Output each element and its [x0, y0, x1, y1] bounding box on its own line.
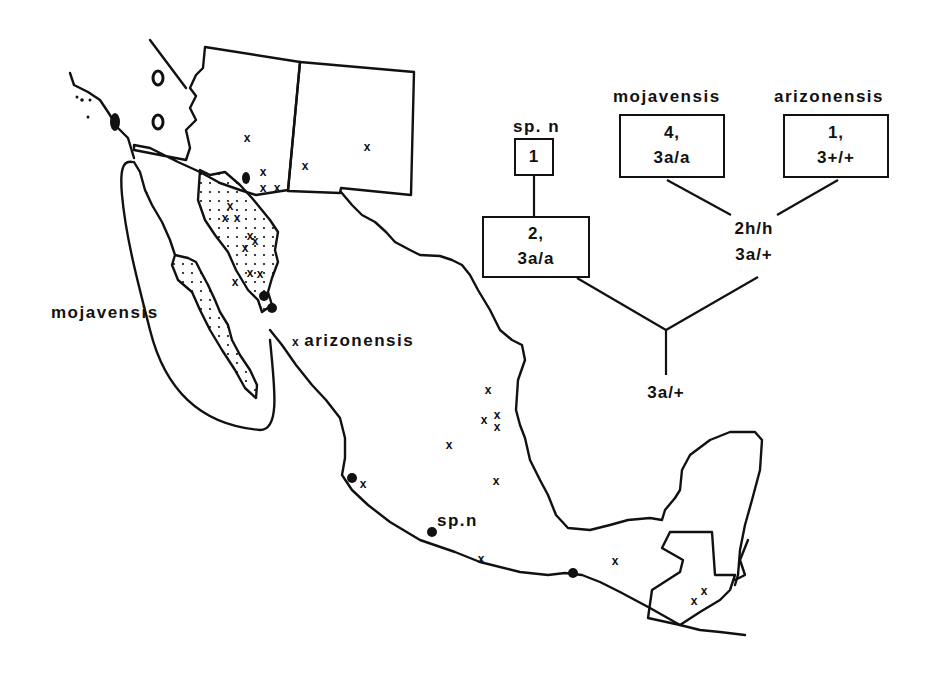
svg-text:x: x	[494, 420, 501, 434]
label-arizonensis: xarizonensis	[292, 332, 414, 349]
locality-dot	[267, 303, 277, 313]
branch	[777, 180, 838, 215]
label-sp-n: sp.n	[437, 512, 478, 529]
svg-text:x: x	[274, 181, 281, 195]
locality-dot	[347, 473, 357, 483]
arizonensis-text: arizonensis	[304, 331, 414, 350]
svg-text:x: x	[360, 477, 367, 491]
locality-dot	[259, 291, 269, 301]
svg-text:x: x	[222, 211, 229, 225]
tree-taxon-mojavensis: mojavensis	[613, 88, 721, 105]
cross-marker: x	[292, 335, 300, 349]
svg-text:x: x	[364, 140, 371, 154]
node-root: 3a/+	[626, 380, 706, 406]
node-line2: 3a/a	[517, 247, 554, 272]
island	[110, 113, 120, 131]
tip-line2: 3a/a	[653, 146, 690, 171]
node-line1: 2h/h	[714, 216, 794, 242]
svg-text:x: x	[493, 474, 500, 488]
node-line1: 2,	[528, 222, 544, 247]
root-label: 3a/+	[626, 380, 706, 406]
tip-box-arizonensis: 1, 3+/+	[783, 114, 889, 178]
tip-line2: 3+/+	[817, 146, 855, 171]
tree-taxon-arizonensis: arizonensis	[774, 88, 884, 105]
branch	[666, 277, 758, 330]
svg-text:x: x	[232, 275, 239, 289]
svg-text:x: x	[242, 241, 249, 255]
branch	[577, 278, 666, 330]
svg-text:x: x	[691, 594, 698, 608]
node-box-spn: 2, 3a/a	[482, 216, 590, 278]
tip-box-spn: 1	[514, 138, 554, 176]
node-line2: 3a/+	[714, 242, 794, 268]
svg-text:x: x	[244, 131, 251, 145]
lake-marker	[153, 71, 163, 85]
svg-text:x: x	[446, 438, 453, 452]
tip-line1: 4,	[664, 121, 680, 146]
california-coast	[70, 73, 134, 158]
tree-taxon-spn: sp. n	[513, 118, 560, 135]
svg-text:x: x	[478, 552, 485, 566]
node-moj-ari: 2h/h 3a/+	[714, 216, 794, 267]
lake-marker	[153, 115, 163, 129]
svg-text:x: x	[701, 584, 708, 598]
svg-text:x: x	[247, 266, 254, 280]
svg-text:x: x	[260, 181, 267, 195]
svg-text:x: x	[252, 234, 259, 248]
locality-dot	[427, 527, 437, 537]
tip-line1: 1,	[828, 121, 844, 146]
svg-text:x: x	[260, 165, 267, 179]
locality-dot	[568, 568, 578, 578]
svg-text:x: x	[257, 267, 264, 281]
lake-marker	[242, 172, 250, 184]
tip-value: 1	[529, 145, 539, 170]
branch	[667, 180, 731, 215]
tip-box-mojavensis: 4, 3a/a	[619, 114, 725, 178]
svg-text:x: x	[302, 159, 309, 173]
guatemala-border	[648, 532, 735, 625]
svg-text:x: x	[234, 211, 241, 225]
svg-text:x: x	[612, 554, 619, 568]
new-mexico-border	[288, 62, 414, 195]
svg-text:x: x	[481, 413, 488, 427]
nevada-border	[150, 40, 186, 88]
label-mojavensis: mojavensis	[51, 304, 159, 321]
mexico-pacific-coast	[270, 330, 745, 635]
svg-text:x: x	[485, 383, 492, 397]
